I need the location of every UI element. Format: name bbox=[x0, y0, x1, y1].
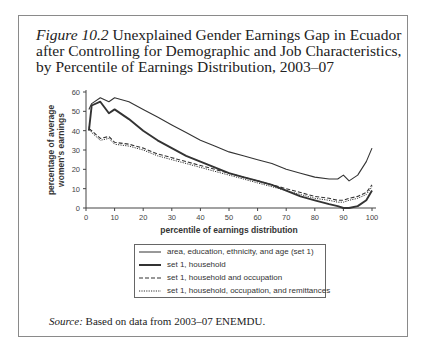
x-tick-label: 20 bbox=[139, 213, 147, 222]
chart-legend: area, education, ethnicity, and age (set… bbox=[134, 244, 326, 298]
x-tick-label: 10 bbox=[110, 213, 118, 222]
x-tick-label: 70 bbox=[282, 213, 290, 222]
x-tick-label: 0 bbox=[84, 213, 88, 222]
x-tick-label: 30 bbox=[168, 213, 176, 222]
chart-lines bbox=[89, 98, 372, 208]
source-note: Source: Based on data from 2003–07 ENEMD… bbox=[49, 315, 265, 327]
y-tick-label: 10 bbox=[72, 185, 80, 194]
line-chart: 01020304050600102030405060708090100 perc… bbox=[0, 0, 429, 354]
x-tick-label: 100 bbox=[366, 213, 379, 222]
y-tick-label: 40 bbox=[72, 127, 80, 136]
y-axis-label: percentage of averagewomen's earnings bbox=[46, 105, 66, 196]
x-axis-label: percentile of earnings distribution bbox=[160, 225, 297, 235]
x-tick-label: 40 bbox=[196, 213, 204, 222]
x-tick-label: 80 bbox=[311, 213, 319, 222]
series-line-3 bbox=[89, 127, 372, 202]
series-line-0 bbox=[89, 98, 372, 181]
dotted-line-icon bbox=[139, 289, 163, 293]
dashed-line-icon bbox=[139, 276, 163, 280]
x-tick-label: 60 bbox=[253, 213, 261, 222]
x-tick-label: 90 bbox=[339, 213, 347, 222]
thick-line-icon bbox=[139, 263, 163, 267]
series-line-1 bbox=[89, 102, 372, 208]
x-tick-label: 50 bbox=[225, 213, 233, 222]
y-tick-label: 20 bbox=[72, 165, 80, 174]
solid-line-icon bbox=[139, 250, 163, 254]
series-line-2 bbox=[89, 129, 372, 201]
source-text: Based on data from 2003–07 ENEMDU. bbox=[86, 315, 266, 327]
chart-axes: 01020304050600102030405060708090100 bbox=[72, 88, 379, 222]
y-tick-label: 60 bbox=[72, 88, 80, 97]
y-tick-label: 0 bbox=[76, 204, 80, 213]
y-tick-label: 50 bbox=[72, 107, 80, 116]
y-tick-label: 30 bbox=[72, 146, 80, 155]
source-label: Source: bbox=[49, 315, 83, 327]
